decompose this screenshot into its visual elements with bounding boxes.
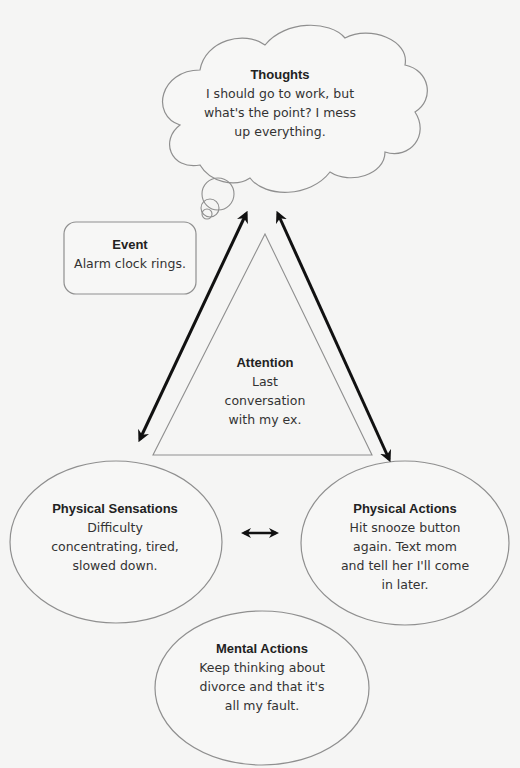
mental-actions-node: Mental Actions Keep thinking about divor… (192, 640, 332, 715)
physical-actions-title: Physical Actions (330, 500, 480, 518)
physical-sensations-node: Physical Sensations Difficulty concentra… (30, 500, 200, 575)
thoughts-node: Thoughts I should go to work, but what's… (170, 66, 390, 141)
mental-actions-title: Mental Actions (192, 640, 332, 658)
physical-actions-node: Physical Actions Hit snooze button again… (330, 500, 480, 594)
physical-sensations-title: Physical Sensations (30, 500, 200, 518)
attention-title: Attention (215, 354, 315, 372)
physical-sensations-text: Difficulty concentrating, tired, slowed … (50, 518, 180, 575)
event-title: Event (64, 236, 196, 254)
attention-text: Last conversation with my ex. (217, 372, 313, 429)
event-text: Alarm clock rings. (64, 254, 196, 273)
attention-node: Attention Last conversation with my ex. (215, 354, 315, 429)
mental-actions-text: Keep thinking about divorce and that it'… (195, 658, 329, 715)
event-node: Event Alarm clock rings. (64, 236, 196, 273)
thoughts-text: I should go to work, but what's the poin… (198, 84, 362, 141)
physical-actions-text: Hit snooze button again. Text mom and te… (340, 518, 470, 594)
thoughts-title: Thoughts (170, 66, 390, 84)
